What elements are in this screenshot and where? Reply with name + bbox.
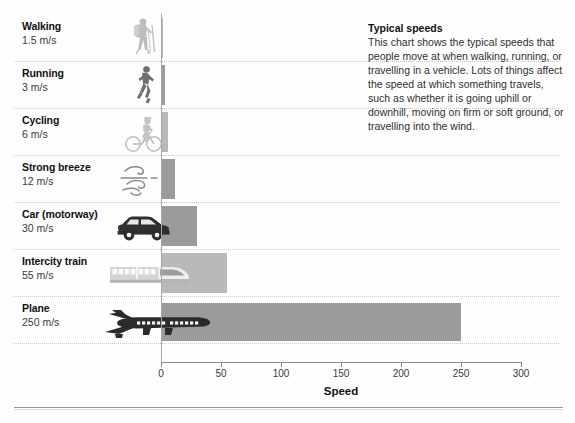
x-tick-200 [401, 362, 402, 367]
bottom-divider-shadow [14, 409, 563, 410]
chart-row-intercity-train: Intercity train 55 m/s [0, 249, 575, 296]
row-speed: 1.5 m/s [22, 34, 142, 47]
chart-row-car: Car (motorway) 30 m/s [0, 202, 575, 249]
x-tick-label-50: 50 [201, 368, 241, 379]
train-icon [110, 263, 190, 291]
wind-icon [117, 163, 163, 201]
typical-speeds-note: Typical speeds This chart shows the typi… [368, 22, 568, 133]
x-tick-0 [161, 362, 162, 367]
x-tick-300 [521, 362, 522, 367]
note-body: This chart shows the typical speeds that… [368, 35, 568, 133]
hiker-icon [128, 16, 162, 64]
x-axis-title: Speed [281, 385, 401, 397]
x-tick-label-150: 150 [321, 368, 361, 379]
x-tick-label-250: 250 [441, 368, 481, 379]
row-name: Running [22, 67, 142, 80]
typical-speeds-chart: Walking 1.5 m/s [0, 0, 575, 423]
airplane-icon [103, 304, 213, 348]
chart-row-plane: Plane 250 m/s [0, 296, 575, 343]
row-label-walking: Walking 1.5 m/s [22, 20, 142, 47]
runner-icon [131, 64, 161, 110]
zero-baseline [161, 14, 162, 362]
note-heading: Typical speeds [368, 22, 568, 34]
x-tick-150 [341, 362, 342, 367]
plot-area: Walking 1.5 m/s [0, 0, 575, 423]
chart-row-strong-breeze: Strong breeze 12 m/s [0, 155, 575, 202]
x-tick-250 [461, 362, 462, 367]
x-tick-label-0: 0 [141, 368, 181, 379]
x-tick-label-100: 100 [261, 368, 301, 379]
row-speed: 3 m/s [22, 81, 142, 94]
car-icon [113, 213, 173, 247]
bottom-divider [14, 407, 563, 408]
x-tick-100 [281, 362, 282, 367]
row-name: Walking [22, 20, 142, 33]
x-tick-label-200: 200 [381, 368, 421, 379]
bar-strong-breeze [161, 159, 175, 199]
bar-cycling [161, 112, 168, 152]
x-tick-50 [221, 362, 222, 367]
row-separator [14, 343, 559, 344]
row-label-running: Running 3 m/s [22, 67, 142, 94]
cyclist-icon [124, 112, 164, 158]
x-tick-label-300: 300 [501, 368, 541, 379]
